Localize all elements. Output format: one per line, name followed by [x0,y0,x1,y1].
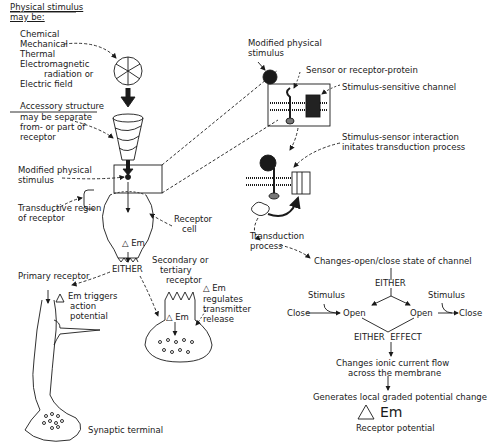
accessory-structure-icon [113,114,143,160]
synaptic-terminal-label: Synaptic terminal [88,425,163,436]
close-left-label: Close [287,308,310,319]
transduction-label: Transduction [250,231,304,242]
modified-stimulus-label-2: stimulus [18,175,54,186]
em-text: Em [175,312,189,322]
receptor-potential-label: Receptor potential [356,423,435,434]
stimulus-type: Electric field [20,79,73,90]
em-text: Em [212,283,226,293]
stimulus-ball-icon [263,70,277,84]
delta-icon: △ [166,312,173,322]
secondary-receptor-label-3: receptor [166,275,202,286]
primary-effect-2: action [70,301,96,312]
either-label: EITHER [112,264,143,275]
changes-state-label: Changes-open/close state of channel [314,256,472,267]
ionic-flow-label-2: across the membrane [348,368,441,379]
ionic-flow-label: Changes ionic current flow [336,358,449,369]
transductive-region-label: Transductive region [18,203,101,214]
stimulus-type: radiation or [44,69,93,80]
close-right-label: Close [459,308,482,319]
interaction-label: Stimulus-sensor interaction [342,132,459,143]
stimulus-header: Physical stimulus [10,2,83,13]
either-right: EITHER [375,278,406,289]
em-large-label: Em [380,404,402,420]
transduction-cloud-icon [251,202,269,215]
arrow-to-stimulus [64,43,116,58]
open-right-label: Open [410,308,433,319]
stimulus-sphere-icon [114,57,142,85]
secondary-receptor-label: Secondary or [152,255,208,266]
secondary-effect-3: transmitter [203,304,251,315]
secondary-inner-em: △ Em [166,312,189,323]
modified-stimulus-right-2: stimulus [248,48,284,59]
open-left-label: Open [343,308,366,319]
em-text: Em [131,238,145,248]
stimulus-type: Thermal [20,49,55,60]
secondary-effect-2: regulates [203,294,243,305]
modified-stimulus-right: Modified physical [248,38,322,49]
sensor-label: Sensor or receptor-protein [306,65,418,76]
interaction-label-2: initates transduction process [342,142,465,153]
either-effect-label: EITHER EFFECT [354,332,422,343]
accessory-desc: receptor [20,132,56,143]
stimulus-left-label: Stimulus [308,290,345,301]
stimulus-type: Electromagnetic [20,59,89,70]
modified-stimulus-label: Modified physical [18,165,92,176]
primary-effect: Em triggers [68,291,118,302]
primary-effect-3: potential [70,311,108,322]
stimulus-type: Mechanical [20,39,68,50]
stimulus-right-label: Stimulus [428,290,465,301]
secondary-receptor-label-2: tertiary [160,265,192,276]
graded-potential-label: Generates local graded potential change [313,392,487,403]
accessory-header: Accessory structure [20,101,104,112]
primary-receptor-label: Primary receptor [18,271,89,282]
channel-label: Stimulus-sensitive channel [342,82,456,93]
delta-icon [56,294,64,302]
accessory-desc: may be separate [20,112,92,123]
secondary-effect: △ Em [203,283,226,294]
receptor-cell-label: Receptor [174,214,212,225]
accessory-desc: from- or part of [20,122,85,133]
stimulus-type: Chemical [20,29,59,40]
delta-icon: △ [122,238,129,248]
delta-icon: △ [203,283,210,293]
delta-em-label: △ Em [122,238,145,249]
membrane-inset-box [268,84,330,126]
transduction-label-2: process [250,241,283,252]
receptor-cell-label-2: cell [182,224,197,235]
secondary-effect-4: release [203,314,234,325]
stimulus-header-2: may be: [10,12,45,23]
secondary-receptor-cell [145,292,212,362]
delta-icon-large [358,405,374,419]
transductive-region-label-2: of receptor [18,213,65,224]
